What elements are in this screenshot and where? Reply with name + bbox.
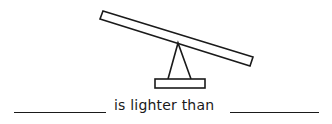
seesaw-plank: [100, 11, 253, 66]
seesaw-base: [155, 79, 205, 88]
seesaw-illustration: [0, 0, 332, 96]
sentence-phrase: is lighter than: [114, 97, 214, 113]
answer-blank-2[interactable]: [230, 112, 319, 113]
answer-blank-1[interactable]: [14, 112, 106, 113]
comparison-sentence: is lighter than: [0, 96, 332, 118]
seesaw-fulcrum: [168, 43, 191, 79]
